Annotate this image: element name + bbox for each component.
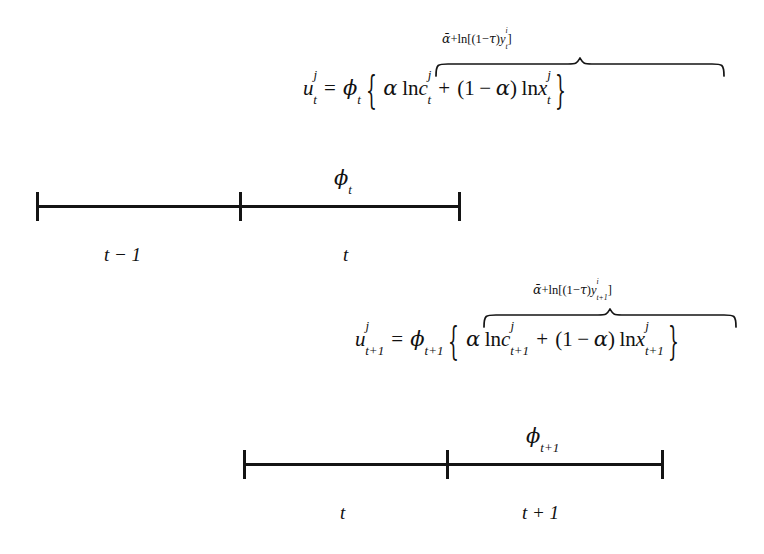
alpha-symbol-2: α: [594, 327, 608, 351]
u-subscript: t: [313, 92, 317, 107]
x-superscript: j: [547, 67, 551, 82]
timeline-t-plus-1-tick-middle: [446, 450, 449, 479]
overbrace-label-utility-t-plus-1: ᾱ+ln[(1−τ)yit+1]: [533, 284, 612, 297]
y-subscript: t: [505, 42, 507, 51]
phi-subscript: t+1: [425, 343, 444, 358]
figure-canvas: ᾱ+ln[(1−τ)yit] ujt=ϕt{αlncjt+(1−α)lnxjt}…: [0, 0, 764, 554]
ln-operator-1: ln: [485, 327, 501, 351]
u-symbol: u: [355, 327, 366, 351]
timeline-t-axis: [36, 205, 461, 208]
x-subscript: t+1: [645, 343, 664, 358]
x-symbol: x: [538, 76, 547, 100]
c-symbol: c: [418, 76, 427, 100]
ln-operator-2: ln: [620, 327, 636, 351]
minus-sign-body: −: [479, 76, 491, 100]
one-literal-body: 1: [562, 327, 573, 351]
alpha-symbol-1: α: [466, 327, 480, 351]
u-subscript: t+1: [365, 343, 384, 358]
equation-utility-t-plus-1: ujt+1=ϕt+1{αlncjt+1+(1−α)lnxjt+1}: [355, 329, 679, 350]
timeline-t-plus-1-phi-label: ϕt+1: [526, 424, 559, 449]
phi-subscript: t: [357, 92, 361, 107]
phi-subscript: t+1: [540, 440, 559, 455]
ln-operator-2: ln: [522, 76, 538, 100]
u-superscript: j: [314, 67, 318, 82]
equals-sign: =: [391, 327, 403, 351]
bracket-close: ]: [608, 283, 612, 297]
phi-symbol: ϕ: [343, 76, 357, 100]
c-symbol: c: [501, 327, 510, 351]
phi-symbol: ϕ: [334, 166, 348, 190]
alpha-symbol-1: α: [383, 76, 397, 100]
equation-utility-t: ujt=ϕt{αlncjt+(1−α)lnxjt}: [303, 78, 566, 99]
phi-symbol: ϕ: [410, 327, 424, 351]
c-subscript: t+1: [510, 343, 529, 358]
phi-symbol: ϕ: [526, 424, 540, 448]
alpha-symbol-2: α: [496, 76, 510, 100]
one-literal-body: 1: [464, 76, 475, 100]
ln-operator: ln: [458, 32, 468, 46]
y-superscript: i: [597, 277, 599, 286]
timeline-t-tick-end: [458, 192, 461, 221]
u-superscript: j: [366, 318, 370, 333]
paren-close-body: ): [510, 76, 517, 100]
c-superscript: j: [510, 318, 514, 333]
minus-sign: −: [573, 283, 580, 297]
bracket-open: [(: [467, 32, 475, 46]
minus-sign-body: −: [577, 327, 589, 351]
equals-sign: =: [324, 76, 336, 100]
plus-sign: +: [450, 32, 457, 46]
plus-sign-body: +: [536, 327, 548, 351]
x-subscript: t: [547, 92, 551, 107]
timeline-t-tick-middle: [239, 192, 242, 221]
brace-open: {: [448, 320, 459, 359]
timeline-t-plus-1-tick-end: [661, 450, 664, 479]
timeline-t-plus-1-period-label-1: t + 1: [522, 502, 559, 524]
overbrace-label-utility-t: ᾱ+ln[(1−τ)yit]: [442, 33, 512, 46]
plus-sign: +: [541, 283, 548, 297]
timeline-t-tick-start: [36, 192, 39, 221]
overbrace-curve-utility-t-plus-1: [482, 308, 738, 328]
timeline-t-phi-label: ϕt: [334, 166, 352, 191]
timeline-t-plus-1-tick-start: [243, 450, 246, 479]
y-superscript: i: [506, 26, 508, 35]
tau-symbol: τ: [489, 31, 496, 46]
bracket-open: [(: [558, 283, 566, 297]
timeline-t-plus-1-period-label-0: t: [340, 502, 345, 524]
brace-close: }: [555, 69, 566, 108]
timeline-t-period-label-0: t − 1: [104, 244, 141, 266]
minus-sign: −: [482, 32, 489, 46]
x-symbol: x: [636, 327, 645, 351]
tau-symbol: τ: [580, 282, 587, 297]
c-superscript: j: [428, 67, 432, 82]
phi-subscript: t: [348, 182, 352, 197]
ln-operator: ln: [549, 283, 559, 297]
u-symbol: u: [303, 76, 314, 100]
overbrace-curve-utility-t: [434, 57, 726, 77]
timeline-t-plus-1-axis: [243, 463, 664, 466]
timeline-t-period-label-1: t: [343, 244, 348, 266]
x-superscript: j: [645, 318, 649, 333]
y-subscript: t+1: [596, 293, 607, 302]
brace-close: }: [668, 320, 679, 359]
ln-operator-1: ln: [402, 76, 418, 100]
bracket-close: ]: [508, 32, 512, 46]
c-subscript: t: [428, 92, 432, 107]
paren-close-body: ): [608, 327, 615, 351]
brace-open: {: [365, 69, 376, 108]
plus-sign-body: +: [438, 76, 450, 100]
